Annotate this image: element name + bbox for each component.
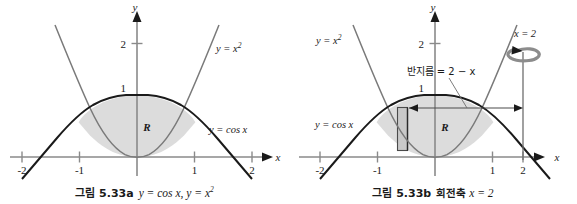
parabola-label: y = x2 xyxy=(315,33,342,46)
figure-5-33a: x y -2 -1 1 2 1 2 y = x2 y = cos x R 그ᄅ… xyxy=(0,0,289,204)
x-axis-arrowhead xyxy=(262,153,273,162)
figure-5-33b: y = x2 y = cos x R 반지름 = 2 − x x = 2 x y… xyxy=(289,0,577,204)
figure-b-caption-text: 회전축 xyxy=(436,187,466,199)
rotation-arrowhead xyxy=(512,46,523,55)
x-tick-label-1: 1 xyxy=(192,164,198,176)
x-axis-arrowhead xyxy=(534,153,545,162)
figure-b-caption: 그림 5.33b회전축x = 2 xyxy=(289,186,577,201)
x-tick-label--2: -2 xyxy=(17,164,26,176)
x-tick-label--1: -1 xyxy=(75,164,84,176)
figure-pair: x y -2 -1 1 2 1 2 y = x2 y = cos x R 그ᄅ… xyxy=(0,0,577,204)
y-tick-label-1: 1 xyxy=(419,82,425,94)
y-axis-label: y xyxy=(132,1,138,13)
figure-a-caption: 그림 5.33ay = cos x, y = x2 xyxy=(0,183,289,201)
figure-a-caption-number: 그림 5.33a xyxy=(75,187,133,200)
axis-of-revolution-label: x = 2 xyxy=(513,28,537,39)
figure-b-caption-math: x = 2 xyxy=(469,187,493,199)
x-axis-label: x xyxy=(275,151,281,163)
y-axis-label: y xyxy=(430,1,436,13)
parabola-label: y = x2 xyxy=(215,41,242,54)
figure-a-caption-text: y = cos x, y = x2 xyxy=(139,187,214,199)
radius-arrow-head-right xyxy=(514,104,523,112)
cosine-label: y = cos x xyxy=(314,119,354,130)
y-tick-label-2: 2 xyxy=(419,38,425,50)
x-tick-label--2: -2 xyxy=(315,164,324,176)
y-tick-label-1: 1 xyxy=(121,82,127,94)
cosine-label: y = cos x xyxy=(208,124,248,135)
region-label-r: R xyxy=(440,121,448,133)
figure-a-plot: x y -2 -1 1 2 1 2 y = x2 y = cos x R xyxy=(0,0,289,204)
x-tick-label-2: 2 xyxy=(520,164,526,176)
y-tick-label-2: 2 xyxy=(121,38,127,50)
figure-b-plot: y = x2 y = cos x R 반지름 = 2 − x x = 2 x y… xyxy=(289,0,577,204)
radius-annotation-label: 반지름 = 2 − x xyxy=(407,66,476,77)
region-label-r: R xyxy=(142,121,150,133)
x-tick-label-1: 1 xyxy=(490,164,496,176)
figure-b-caption-number: 그림 5.33b xyxy=(372,187,431,200)
x-tick-label--1: -1 xyxy=(373,164,382,176)
x-tick-label-2: 2 xyxy=(249,164,255,176)
x-axis-label: x xyxy=(554,151,560,163)
